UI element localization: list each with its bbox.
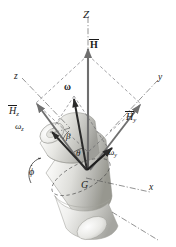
angle-beta-label: β — [66, 132, 70, 141]
diagram-canvas — [0, 0, 176, 247]
vector-omega-label: ω — [64, 83, 71, 93]
axis-Z-label: Z — [83, 9, 89, 20]
center-of-mass-label: G — [81, 180, 88, 190]
vector-Hy-label: Hy — [126, 112, 136, 124]
axis-z-label: z — [14, 72, 18, 82]
axis-z-line — [22, 78, 70, 128]
axis-x-label: x — [149, 183, 153, 193]
gyroscope-angular-momentum-figure: Z H z y x Hz Hy ω ωz ωy β θ ϕ G — [0, 0, 176, 247]
axis-y-label: y — [158, 73, 162, 83]
spin-axis-lower — [112, 212, 158, 240]
rotor-body — [36, 113, 118, 245]
vector-Hz-label: Hz — [9, 106, 19, 118]
omega-z-label: ωz — [15, 122, 24, 132]
angle-theta-label: θ — [76, 149, 80, 158]
precession-rate-label: ϕ — [29, 167, 34, 177]
omega-y-label: ωy — [108, 148, 117, 158]
vector-H-label: H — [90, 40, 98, 50]
